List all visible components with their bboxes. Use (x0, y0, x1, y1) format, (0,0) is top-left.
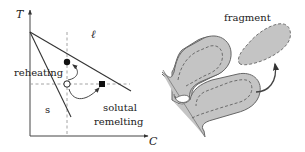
after-reheating-marker (64, 59, 70, 65)
phase-diagram: T C ℓ s reheating solutal remelting (14, 8, 158, 148)
detached-fragment (238, 24, 290, 65)
x-axis-label: C (149, 135, 158, 148)
y-axis-label: T (16, 8, 25, 21)
figure: T C ℓ s reheating solutal remelting frag… (0, 0, 305, 152)
remelting-label: remelting (94, 116, 144, 127)
liquidus-line (30, 32, 131, 91)
solutal-label: solutal (103, 102, 137, 113)
solutal-remelting-arrow (69, 88, 99, 99)
liquid-region-label: ℓ (91, 28, 96, 41)
initial-state-marker (64, 81, 70, 87)
solid-region-label: s (45, 104, 50, 115)
reheating-label: reheating (14, 67, 64, 78)
fragment-label: fragment (224, 12, 271, 23)
dendrite-diagram: fragment (162, 12, 291, 138)
reheating-arrow (68, 65, 77, 80)
after-solutal-remelting-marker (99, 81, 105, 87)
